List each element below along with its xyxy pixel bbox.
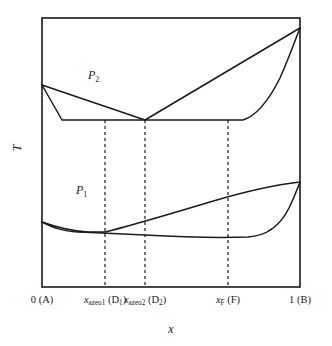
phase-diagram-figure: T x 0 (A) xazeo1 (D1) xazeo2 (D2) xF (F)… (0, 0, 332, 346)
tick-label-pure-b: 1 (B) (289, 295, 311, 306)
tick-label-feed: xF (F) (216, 295, 240, 306)
curve-p2-dew (42, 28, 300, 120)
tick-label-pure-a: 0 (A) (31, 295, 53, 306)
curve-label-p1: P1 (76, 184, 87, 196)
axis-frame (42, 18, 300, 287)
tick-label-azeotrope-2: xazeo2 (D2) (124, 295, 166, 306)
y-axis-title: T (11, 145, 23, 152)
x-axis-title: x (168, 323, 173, 335)
tick-label-azeotrope-1: xazeo1 (D1) (84, 295, 126, 306)
curve-label-p2: P2 (88, 69, 99, 81)
